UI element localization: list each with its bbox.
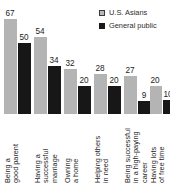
bar-group: 28 20 [94,0,122,114]
bar-group: 54 34 [34,0,62,114]
category-label-text: Being successful in a high-paying career [124,114,149,183]
category-label-having-a-successful-marriage: Having a successful marriage [34,114,62,183]
category-label-being-successful-in-a-high-paying-career: Being successful in a high-paying career [124,114,152,183]
bar-general-public [163,100,170,114]
bar-value-label: 20 [76,76,92,85]
bar-value-label: 27 [122,66,138,75]
bar-value-label: 54 [32,27,48,36]
bar-value-label: 50 [16,33,32,42]
bar-general-public [108,86,121,114]
bar-general-public [48,66,61,114]
category-axis: Being a good parent Having a successful … [0,114,170,183]
category-label-text: Being a good parent [4,114,21,183]
category-label-text: Having lots of free time [150,114,167,183]
bar-value-label: 10 [160,90,170,99]
category-label-owning-a-home: Owning a home [64,114,92,183]
bar-value-label: 67 [2,9,18,18]
bar-general-public [78,86,91,114]
bar-group: 67 50 [4,0,32,114]
plot-area: 67 50 54 34 32 20 28 20 27 [0,0,170,114]
bar-group: 27 9 [124,0,152,114]
bar-value-label: 28 [92,64,108,73]
bar-general-public [18,43,31,114]
category-label-having-lots-of-free-time: Having lots of free time [150,114,170,183]
bar-value-label: 20 [147,76,163,85]
bar-group: 32 20 [64,0,92,114]
bar-value-label: 34 [46,56,62,65]
category-label-being-a-good-parent: Being a good parent [4,114,32,183]
category-label-helping-others-in-need: Helping others in need [94,114,122,183]
category-label-text: Owning a home [64,114,81,183]
bar-us-asians [34,37,47,114]
category-label-text: Helping others in need [94,114,111,183]
bar-group: 20 10 [150,0,170,114]
bar-chart: U.S. Asians General public 67 50 54 34 3… [0,0,170,183]
bar-value-label: 32 [62,59,78,68]
bar-value-label: 20 [106,76,122,85]
category-label-text: Having a successful marriage [34,114,59,183]
